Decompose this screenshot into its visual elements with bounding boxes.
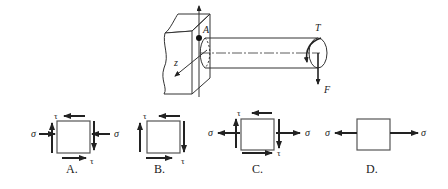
- option-b-label: B.: [154, 162, 165, 176]
- diagram-canvas: z A T F τ τ σ σ A.: [0, 0, 448, 189]
- torque-label: T: [315, 22, 322, 33]
- option-c-label: C.: [252, 162, 263, 176]
- z-axis-label: z: [173, 57, 178, 68]
- svg-text:τ: τ: [277, 148, 281, 158]
- svg-text:σ: σ: [421, 127, 427, 138]
- svg-text:τ: τ: [237, 108, 241, 118]
- svg-text:τ: τ: [90, 156, 94, 166]
- svg-text:τ: τ: [143, 111, 147, 121]
- option-d-label: D.: [366, 162, 378, 176]
- svg-text:σ: σ: [208, 127, 214, 138]
- svg-text:σ: σ: [305, 127, 311, 138]
- svg-text:τ: τ: [181, 156, 185, 166]
- svg-text:σ: σ: [325, 127, 331, 138]
- shaft: [200, 38, 327, 68]
- point-a-marker: [196, 35, 202, 41]
- svg-text:σ: σ: [114, 128, 120, 139]
- svg-text:σ: σ: [31, 128, 37, 139]
- option-d[interactable]: σ σ D.: [325, 119, 427, 176]
- point-a-label: A: [202, 24, 210, 35]
- option-c[interactable]: τ τ σ σ C.: [208, 108, 311, 176]
- option-a-label: A.: [66, 162, 78, 176]
- svg-text:τ: τ: [54, 111, 58, 121]
- force-label: F: [323, 84, 331, 95]
- cantilever-figure: z A T F: [163, 6, 331, 97]
- option-a[interactable]: τ τ σ σ A.: [31, 111, 120, 176]
- option-b[interactable]: τ τ B.: [140, 111, 185, 176]
